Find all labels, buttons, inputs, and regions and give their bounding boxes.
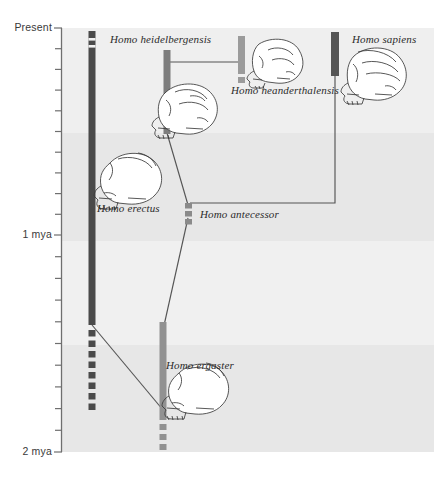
bar-dashed-antecessor xyxy=(185,203,192,225)
bar-homo-erectus[interactable] xyxy=(89,31,96,410)
bar-solid-sapiens xyxy=(331,32,339,76)
axis-ticks xyxy=(54,28,62,452)
axis-label-2mya: 2 mya xyxy=(8,445,52,457)
species-label-erectus: Homo erectus xyxy=(97,202,160,214)
timeline-canvas xyxy=(0,0,446,478)
time-axis xyxy=(54,28,62,452)
hominin-timeline-figure: Present 1 mya 2 mya Homo heidelbergensis… xyxy=(0,0,446,478)
species-label-antecessor: Homo antecessor xyxy=(200,208,279,220)
axis-label-present: Present xyxy=(8,21,52,33)
band-2 xyxy=(62,241,434,345)
species-label-sapiens: Homo sapiens xyxy=(352,33,416,45)
bar-homo-antecessor[interactable] xyxy=(185,203,192,225)
bar-dashed-ergaster xyxy=(160,424,167,450)
species-label-neanderthalensis: Homo neanderthalensis xyxy=(231,84,339,96)
axis-label-1mya: 1 mya xyxy=(8,228,52,240)
bar-homo-sapiens[interactable] xyxy=(331,32,339,76)
bar-gap-erectus-top2 xyxy=(89,45,96,48)
bar-solid-erectus xyxy=(89,31,96,325)
band-3 xyxy=(62,345,434,452)
bar-dashed-neanderthalensis xyxy=(238,77,245,83)
bar-gap-erectus-top xyxy=(89,38,96,41)
chart-stage: Present 1 mya 2 mya Homo heidelbergensis… xyxy=(0,0,446,478)
species-label-ergaster: Homo ergaster xyxy=(166,359,234,371)
species-label-heidelbergensis: Homo heidelbergensis xyxy=(110,33,211,45)
bar-solid-ergaster xyxy=(160,322,167,420)
bar-solid-neanderthalensis xyxy=(238,36,245,74)
